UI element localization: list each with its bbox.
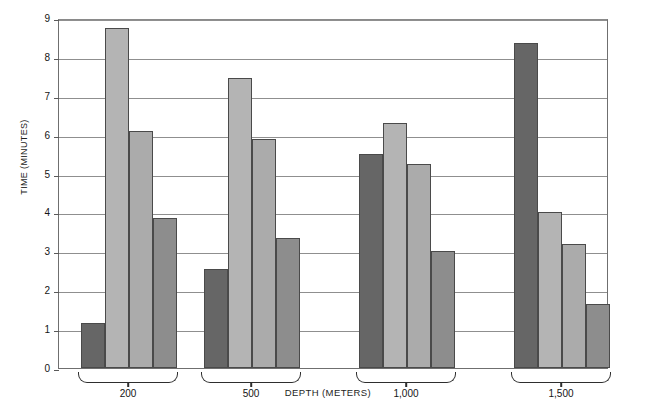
plot-area <box>58 19 608 369</box>
bar <box>562 244 586 368</box>
bar <box>204 269 228 368</box>
bar <box>359 154 383 368</box>
y-tick-label: 4 <box>24 207 50 218</box>
y-tick-label: 3 <box>24 246 50 257</box>
y-tick-label: 9 <box>24 13 50 24</box>
y-tick-label: 1 <box>24 324 50 335</box>
y-tick-label: 0 <box>24 363 50 374</box>
x-axis-title: DEPTH (METERS) <box>0 387 656 398</box>
bar <box>383 123 407 368</box>
bar <box>81 323 105 368</box>
bar <box>276 238 300 368</box>
bar <box>431 251 455 368</box>
group-bracket <box>201 372 301 383</box>
bar <box>228 78 252 368</box>
bar <box>514 43 538 368</box>
y-tick-label: 2 <box>24 285 50 296</box>
y-axis-title: TIME (MINUTES) <box>19 87 29 227</box>
bar <box>129 131 153 368</box>
y-tick-label: 6 <box>24 130 50 141</box>
bars-group <box>59 20 607 368</box>
bar-chart: TIME (MINUTES) 0123456789 2005001,0001,5… <box>0 0 656 408</box>
bar <box>105 28 129 368</box>
group-bracket <box>78 372 178 383</box>
group-bracket <box>356 372 456 383</box>
bar <box>252 139 276 368</box>
bar <box>407 164 431 368</box>
bar <box>538 212 562 368</box>
y-tick-label: 7 <box>24 91 50 102</box>
y-tick-label: 8 <box>24 52 50 63</box>
y-tick-label: 5 <box>24 169 50 180</box>
bar <box>153 218 177 368</box>
bar <box>586 304 610 368</box>
group-bracket <box>511 372 611 383</box>
